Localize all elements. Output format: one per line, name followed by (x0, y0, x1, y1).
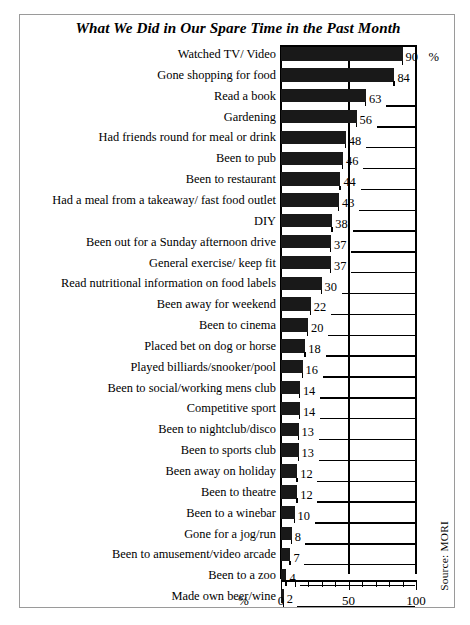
bar-category-label: Had a meal from a takeaway/ fast food ou… (32, 192, 276, 208)
bar-row: Been out for a Sunday afternoon drive37 (20, 233, 456, 254)
x-tick-label: 0 (261, 593, 301, 609)
bar (281, 485, 297, 498)
value-leader-line (317, 501, 415, 502)
bar-category-label: DIY (32, 213, 276, 229)
bar-row: Been away on holiday12 (20, 462, 456, 483)
bar (281, 256, 331, 269)
bar-row: Been to sports club13 (20, 441, 456, 462)
bar-row: Gardening56 (20, 108, 456, 129)
plot-area: Watched TV/ Video90Gone shopping for foo… (20, 45, 456, 580)
value-leader-line (386, 105, 415, 106)
value-leader-line (317, 481, 415, 482)
bar-category-label: Gardening (32, 109, 276, 125)
bar-category-label: Had friends round for meal or drink (32, 129, 276, 145)
value-leader-line (320, 397, 415, 398)
bar-row: Had a meal from a takeaway/ fast food ou… (20, 191, 456, 212)
bar-row: Competitive sport14 (20, 399, 456, 420)
bar-row: Been to cinema20 (20, 316, 456, 337)
bar-end-tick (356, 123, 357, 127)
bar (281, 506, 295, 519)
bar-category-label: Been to a winebar (32, 505, 276, 521)
bar (281, 152, 343, 165)
x-tick-label: 50 (329, 593, 369, 609)
bar-category-label: Been away for weekend (32, 296, 276, 312)
bar-row: Gone shopping for food84 (20, 66, 456, 87)
bar-row: Had friends round for meal or drink48 (20, 128, 456, 149)
bar-category-label: Been to social/working mens club (32, 380, 276, 396)
bar-end-tick (345, 144, 346, 148)
bar (281, 47, 403, 60)
bar-row: Read a book63 (20, 87, 456, 108)
bar-row: Been to social/working mens club14 (20, 379, 456, 400)
bar-category-label: Been to pub (32, 150, 276, 166)
bar-value-label: 37 (334, 259, 346, 274)
bar-category-label: Been away on holiday (32, 463, 276, 479)
bar-category-label: Gone for a jog/run (32, 526, 276, 542)
bar-category-label: Read nutritional information on food lab… (32, 275, 276, 291)
bar-row: Been to pub46 (20, 149, 456, 170)
bar (281, 214, 332, 227)
x-tick-major (349, 582, 350, 591)
value-leader-line (342, 293, 416, 294)
bar-category-label: Been to cinema (32, 317, 276, 333)
value-leader-line (304, 564, 416, 565)
bar-value-label: 38 (335, 217, 347, 232)
value-leader-line (415, 84, 416, 85)
bar-value-label: 10 (298, 509, 310, 524)
bar-value-label: 30 (325, 280, 337, 295)
bar (281, 423, 299, 436)
bar-value-label: 56 (360, 113, 372, 128)
value-leader-line (377, 126, 416, 127)
bar-value-label: 90 (406, 50, 418, 65)
chart-title: What We Did in Our Spare Time in the Pas… (20, 19, 456, 37)
bar-value-label: 44 (343, 175, 355, 190)
bar (281, 464, 297, 477)
value-leader-line (319, 439, 416, 440)
bar-value-label: 16 (306, 363, 318, 378)
bar-end-tick (296, 498, 297, 502)
bar-row: Watched TV/ Video90 (20, 45, 456, 66)
bar-end-tick (299, 415, 300, 419)
value-leader-line (326, 355, 416, 356)
x-tick-minor (295, 582, 296, 587)
bar (281, 131, 346, 144)
bar-category-label: General exercise/ keep fit (32, 255, 276, 271)
bar-category-label: Been to theatre (32, 484, 276, 500)
bar-value-label: 13 (302, 425, 314, 440)
bar (281, 277, 322, 290)
bar-row: Read nutritional information on food lab… (20, 274, 456, 295)
bar-category-label: Been to restaurant (32, 171, 276, 187)
x-tick-minor (376, 582, 377, 587)
bar (281, 527, 292, 540)
bar-end-tick (296, 478, 297, 482)
bar (281, 548, 290, 561)
bar-end-tick (310, 311, 311, 315)
bar-row: Been to theatre12 (20, 483, 456, 504)
bar-end-tick (330, 269, 331, 273)
x-axis-percent-label: % (238, 593, 249, 609)
source-note: Source: MORI (438, 521, 450, 591)
value-leader-line (320, 418, 415, 419)
bar-end-tick (298, 436, 299, 440)
value-leader-line (305, 543, 416, 544)
bar-value-label: 14 (303, 405, 315, 420)
bar (281, 68, 394, 81)
bar-value-label: 12 (300, 488, 312, 503)
bar (281, 339, 305, 352)
bar-value-label: 20 (311, 321, 323, 336)
bar-row: Played billiards/snooker/pool16 (20, 358, 456, 379)
value-leader-line (323, 376, 416, 377)
bar-category-label: Been to sports club (32, 442, 276, 458)
bar-row: Been to nightclub/disco13 (20, 420, 456, 441)
bar-category-label: Watched TV/ Video (32, 46, 276, 62)
bar-value-label: 7 (293, 551, 299, 566)
bar-end-tick (331, 227, 332, 231)
value-leader-line (359, 210, 415, 211)
bar-category-label: Been out for a Sunday afternoon drive (32, 234, 276, 250)
x-axis-scale: 050100 % (20, 580, 456, 624)
bar (281, 443, 299, 456)
bar-category-label: Read a book (32, 88, 276, 104)
x-tick-minor (322, 582, 323, 587)
bar-end-tick (299, 394, 300, 398)
bar-value-label: 63 (369, 92, 381, 107)
